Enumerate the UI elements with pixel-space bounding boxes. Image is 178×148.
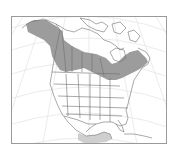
range-map: [0, 0, 178, 148]
